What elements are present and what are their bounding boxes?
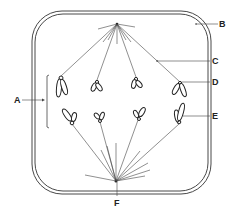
- bracket-a: [47, 75, 49, 128]
- chromosome: [132, 107, 146, 121]
- chromosome: [90, 80, 103, 92]
- lower-chromosomes: [61, 103, 186, 125]
- bottom-pole: [72, 120, 179, 183]
- top-pole: [61, 23, 180, 82]
- chromosome: [171, 81, 188, 97]
- chromosome: [56, 76, 69, 97]
- chromosome: [131, 77, 144, 89]
- anaphase-diagram: A B C D E F: [0, 0, 235, 212]
- chromosome: [93, 112, 105, 123]
- label-c: C: [212, 56, 219, 66]
- label-f: F: [114, 198, 120, 208]
- chromosome: [174, 103, 186, 124]
- upper-chromosomes: [56, 76, 188, 97]
- label-e: E: [212, 111, 218, 121]
- label-b: B: [219, 19, 226, 29]
- chromosome: [61, 108, 77, 125]
- label-d: D: [212, 77, 219, 87]
- label-a: A: [14, 95, 21, 105]
